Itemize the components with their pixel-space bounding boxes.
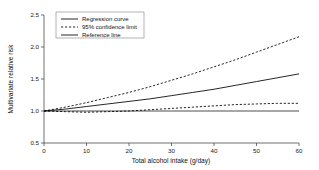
- x-axis-title: Total alcohol intake (g/day): [132, 157, 210, 165]
- y-axis-title: Multivariate relative risk: [7, 44, 14, 114]
- legend-label-1: 95% confidence limit: [82, 24, 137, 30]
- y-tick-label: 2.5: [30, 11, 39, 18]
- x-tick-label: 40: [211, 147, 218, 154]
- x-tick-label: 10: [83, 147, 90, 154]
- x-tick-label: 60: [296, 147, 303, 154]
- chart-legend: Regression curve95% confidence limitRefe…: [56, 12, 144, 38]
- y-tick-label: 2.0: [30, 43, 39, 50]
- y-tick-label: 1.0: [30, 107, 39, 114]
- chart-background: [0, 0, 319, 170]
- legend-label-2: Reference line: [82, 32, 121, 38]
- chart-figure: 0.51.01.52.02.5 0102030405060 Total alco…: [0, 0, 319, 170]
- legend-label-0: Regression curve: [82, 16, 129, 22]
- x-tick-label: 30: [168, 147, 175, 154]
- y-tick-label: 0.5: [30, 139, 39, 146]
- y-tick-label: 1.5: [30, 75, 39, 82]
- relative-risk-line-chart: 0.51.01.52.02.5 0102030405060 Total alco…: [0, 0, 319, 170]
- x-tick-label: 0: [42, 147, 46, 154]
- x-tick-label: 20: [126, 147, 133, 154]
- x-tick-label: 50: [253, 147, 260, 154]
